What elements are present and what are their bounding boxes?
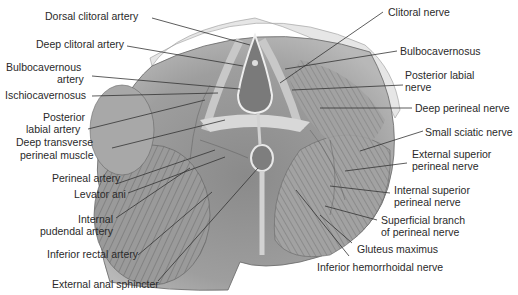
label-dorsal-clitoral-artery: Dorsal clitoral artery bbox=[45, 10, 138, 22]
label-gluteus-maximus: Gluteus maximus bbox=[357, 243, 438, 255]
label-clitoral-nerve: Clitoral nerve bbox=[388, 6, 450, 18]
label-posterior-labial-artery: labial artery bbox=[26, 123, 80, 135]
label-deep-transverse-perineal-muscle: perineal muscle bbox=[20, 149, 94, 161]
label-deep-perineal-nerve: Deep perineal nerve bbox=[415, 102, 510, 114]
label-internal-superior-perineal-nerve: perineal nerve bbox=[394, 196, 461, 208]
label-internal-superior-perineal-nerve: Internal superior bbox=[394, 184, 470, 196]
label-ischiocavernosus: Ischiocavernosus bbox=[5, 89, 86, 101]
label-posterior-labial-nerve: nerve bbox=[405, 81, 431, 93]
label-external-superior-perineal-nerve: perineal nerve bbox=[412, 160, 479, 172]
label-posterior-labial-nerve: Posterior labial bbox=[405, 69, 474, 81]
label-bulbocavernous-artery: artery bbox=[57, 73, 84, 85]
label-bulbocavernous-artery: Bulbocavernous bbox=[6, 61, 81, 73]
label-posterior-labial-artery: Posterior bbox=[43, 111, 85, 123]
label-deep-clitoral-artery: Deep clitoral artery bbox=[36, 38, 124, 50]
label-external-superior-perineal-nerve: External superior bbox=[412, 148, 491, 160]
label-levator-ani: Levator ani bbox=[74, 188, 126, 200]
label-inferior-rectal-artery: Inferior rectal artery bbox=[47, 248, 138, 260]
label-superficial-branch-perineal-nerve: of perineal nerve bbox=[381, 226, 459, 238]
label-small-sciatic-nerve: Small sciatic nerve bbox=[425, 126, 513, 138]
label-inferior-hemorrhoidal-nerve: Inferior hemorrhoidal nerve bbox=[317, 261, 443, 273]
label-internal-pudendal-artery: pudendal artery bbox=[40, 225, 113, 237]
label-external-anal-sphincter: External anal sphincter bbox=[52, 278, 159, 290]
label-bulbocavernosus: Bulbocavernosus bbox=[400, 45, 481, 57]
label-internal-pudendal-artery: Internal bbox=[78, 213, 113, 225]
label-deep-transverse-perineal-muscle: Deep transverse bbox=[16, 136, 93, 148]
label-perineal-artery: Perineal artery bbox=[52, 172, 120, 184]
anal-opening bbox=[251, 145, 273, 171]
label-superficial-branch-perineal-nerve: Superficial branch bbox=[381, 214, 465, 226]
